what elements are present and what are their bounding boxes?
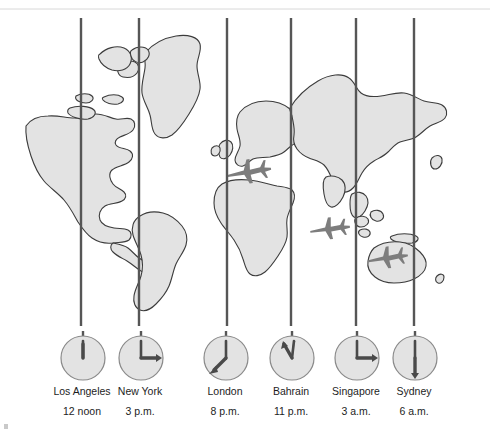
clock-strip: Los Angeles 12 noon New York 3 p.m.	[0, 330, 490, 432]
land-india	[323, 176, 345, 207]
clock-dial-new-york	[117, 331, 165, 381]
clock-dial-bahrain	[268, 331, 316, 381]
land-indonesia-b	[370, 210, 383, 221]
clock-dial-sydney	[391, 331, 439, 381]
clock-face-new-york	[100, 330, 180, 382]
land-greenland	[142, 35, 201, 137]
land-japan	[431, 155, 443, 169]
timezone-figure: Los Angeles 12 noon New York 3 p.m.	[0, 0, 490, 432]
airplane-indian-ocean	[309, 215, 351, 241]
land-asia	[290, 75, 447, 192]
world-map-panel	[0, 8, 490, 326]
clock-dial-london	[202, 331, 250, 381]
clock-time-label: 6 a.m.	[374, 405, 454, 418]
land-new-zealand	[436, 274, 444, 283]
clock-group-new-york: New York 3 p.m.	[100, 330, 180, 418]
clock-time-label: 3 p.m.	[100, 405, 180, 418]
land-australia	[368, 242, 426, 283]
land-indonesia-c	[359, 229, 371, 237]
clock-face-sydney	[374, 330, 454, 382]
land-arctic-islands	[98, 47, 131, 71]
land-island-north-a	[102, 95, 123, 105]
clock-city-label: New York	[100, 385, 180, 398]
land-ireland	[211, 146, 220, 156]
scan-artifact-speck	[4, 424, 8, 429]
land-southeast-asia	[350, 192, 368, 217]
world-map-svg	[0, 8, 490, 326]
clock-group-sydney: Sydney 6 a.m.	[374, 330, 454, 418]
land-island-north-b	[76, 94, 93, 103]
clock-city-label: Sydney	[374, 385, 454, 398]
